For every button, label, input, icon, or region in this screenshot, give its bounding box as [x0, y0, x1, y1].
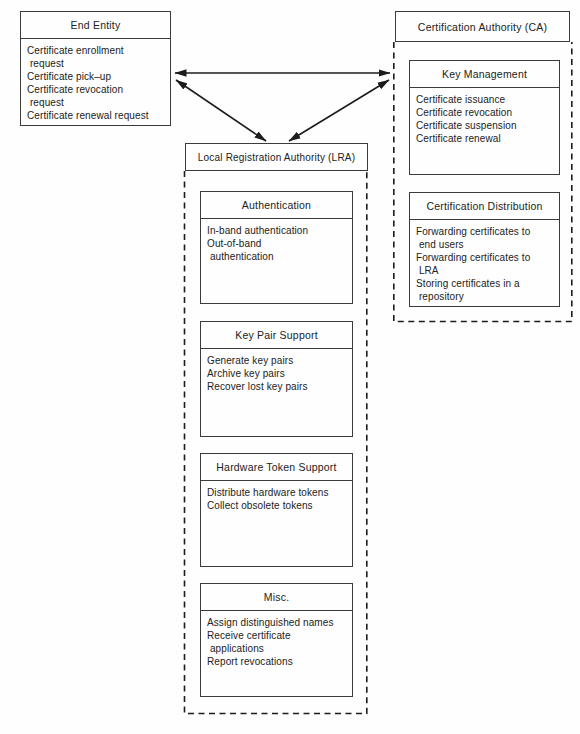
list-item: Certificate renewal request — [27, 109, 168, 122]
list-item: Out-of-band authentication — [207, 237, 350, 263]
list-item: Certificate suspension — [416, 119, 557, 132]
certification-distribution-title: Certification Distribution — [410, 193, 559, 220]
ca-title-box: Certification Authority (CA) — [395, 11, 570, 42]
list-item: Receive certificate applications — [207, 629, 350, 655]
list-item: Assign distinguished names — [207, 616, 350, 629]
end-entity-box: End Entity Certificate enrollment reques… — [20, 11, 171, 126]
key-pair-support-title: Key Pair Support — [201, 322, 352, 349]
authentication-items: In-band authenticationOut-of-band authen… — [201, 219, 352, 263]
list-item: Certificate revocation — [416, 106, 557, 119]
module-key-pair-support: Key Pair Support Generate key pairsArchi… — [200, 321, 353, 437]
list-item: Certificate revocation request — [27, 83, 168, 109]
list-item: Forwarding certificates to end users — [416, 225, 557, 251]
end-entity-title: End Entity — [21, 12, 170, 39]
module-certification-distribution: Certification Distribution Forwarding ce… — [409, 192, 560, 307]
list-item: Distribute hardware tokens — [207, 486, 350, 499]
misc-items: Assign distinguished namesReceive certif… — [201, 611, 352, 668]
list-item: Certificate enrollment request — [27, 44, 168, 70]
list-item: Forwarding certificates to LRA — [416, 251, 557, 277]
list-item: Certificate pick–up — [27, 70, 168, 83]
list-item: Recover lost key pairs — [207, 380, 350, 393]
list-item: Certificate renewal — [416, 132, 557, 145]
module-hardware-token-support: Hardware Token Support Distribute hardwa… — [200, 453, 353, 567]
pki-architecture-diagram: End Entity Certificate enrollment reques… — [0, 0, 580, 734]
certification-distribution-items: Forwarding certificates to end usersForw… — [410, 220, 559, 303]
list-item: Storing certificates in a repository — [416, 277, 557, 303]
list-item: In-band authentication — [207, 224, 350, 237]
list-item: Certificate issuance — [416, 93, 557, 106]
hardware-token-support-title: Hardware Token Support — [201, 454, 352, 481]
list-item: Generate key pairs — [207, 354, 350, 367]
list-item: Collect obsolete tokens — [207, 499, 350, 512]
module-misc: Misc. Assign distinguished namesReceive … — [200, 583, 353, 697]
list-item: Archive key pairs — [207, 367, 350, 380]
key-pair-support-items: Generate key pairsArchive key pairsRecov… — [201, 349, 352, 393]
authentication-title: Authentication — [201, 192, 352, 219]
arrow-ca-lra — [289, 80, 389, 141]
module-key-management: Key Management Certificate issuanceCerti… — [409, 60, 560, 175]
key-management-items: Certificate issuanceCertificate revocati… — [410, 88, 559, 145]
hardware-token-support-items: Distribute hardware tokensCollect obsole… — [201, 481, 352, 512]
key-management-title: Key Management — [410, 61, 559, 88]
list-item: Report revocations — [207, 655, 350, 668]
module-authentication: Authentication In-band authenticationOut… — [200, 191, 353, 304]
lra-title-box: Local Registration Authority (LRA) — [185, 143, 368, 171]
arrow-endentity-lra — [176, 80, 266, 141]
end-entity-items: Certificate enrollment requestCertificat… — [21, 39, 170, 122]
misc-title: Misc. — [201, 584, 352, 611]
